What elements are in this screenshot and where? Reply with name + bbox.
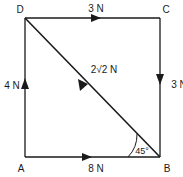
diagonal-db	[25, 18, 160, 157]
diagonal-db-line	[25, 18, 160, 157]
force-label-ab: 8 N	[88, 163, 104, 174]
force-diagram-svg: A B C D 8 N 3 N 3 N 4 N 2√2 N 45°	[0, 0, 183, 177]
angle-label-45: 45°	[135, 146, 149, 156]
force-ad-arrow	[21, 78, 29, 89]
force-label-db: 2√2 N	[91, 64, 118, 75]
force-diagram-canvas: A B C D 8 N 3 N 3 N 4 N 2√2 N 45°	[0, 0, 183, 177]
vertex-label-b: B	[164, 163, 171, 174]
force-dc-arrowhead	[91, 14, 101, 22]
force-label-ad: 4 N	[4, 80, 20, 91]
force-label-cb: 3 N	[171, 79, 183, 90]
force-label-dc: 3 N	[88, 3, 104, 14]
force-cb-arrow	[156, 74, 164, 85]
vertex-label-d: D	[16, 4, 23, 15]
vertex-label-a: A	[18, 163, 25, 174]
vertex-label-c: C	[162, 4, 169, 15]
force-cb-arrowhead	[156, 74, 164, 85]
force-ad-arrowhead	[21, 78, 29, 89]
force-ab-arrow	[82, 153, 92, 161]
force-dc-arrow	[91, 14, 101, 22]
force-ab-arrowhead	[82, 153, 92, 161]
